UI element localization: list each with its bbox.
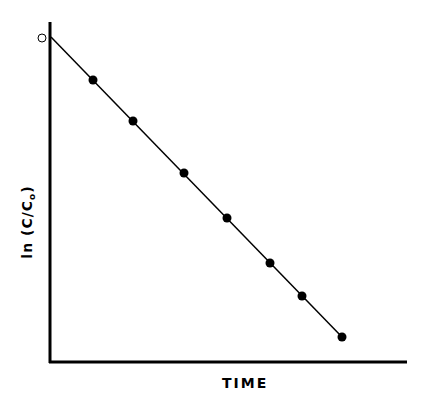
data-point-marker bbox=[266, 259, 275, 268]
data-point-marker bbox=[298, 292, 307, 301]
data-point-marker bbox=[180, 169, 189, 178]
y-axis-label: ln (C/Co) bbox=[19, 185, 38, 258]
initial-open-circle-marker bbox=[38, 34, 46, 42]
x-axis-label: TIME bbox=[222, 375, 268, 391]
chart-plot bbox=[0, 0, 425, 409]
data-point-marker bbox=[338, 333, 347, 342]
data-point-marker bbox=[223, 214, 232, 223]
axes bbox=[49, 22, 407, 363]
data-point-marker bbox=[129, 117, 138, 126]
data-point-marker bbox=[89, 76, 98, 85]
